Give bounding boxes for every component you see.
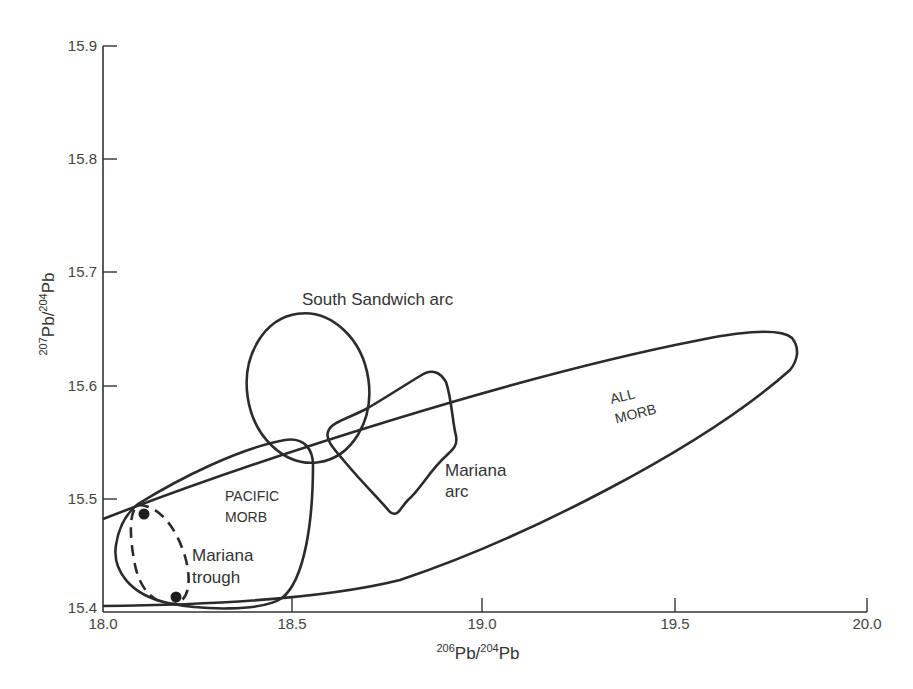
- y-tick-label: 15.9: [68, 37, 97, 54]
- label-mariana-trough-1: Mariana: [192, 546, 254, 565]
- label-mariana-arc-1: Mariana: [445, 461, 507, 480]
- mariana-trough-field: [131, 505, 189, 604]
- label-pacific-morb-1: PACIFIC: [225, 488, 279, 504]
- label-mariana-arc-2: arc: [445, 482, 469, 501]
- svg-text:ALL: ALL: [608, 385, 636, 407]
- y-tick-label: 15.7: [68, 263, 97, 280]
- y-tick-label: 15.6: [68, 377, 97, 394]
- axes: 15.9 15.8 15.7 15.6 15.5 15.4 18.0 18.5 …: [37, 37, 882, 663]
- label-mariana-trough-2: trough: [192, 568, 240, 587]
- x-tick-label: 19.0: [467, 615, 496, 632]
- y-ticks: 15.9 15.8 15.7 15.6 15.5 15.4: [68, 37, 117, 616]
- label-pacific-morb-2: MORB: [225, 509, 267, 525]
- label-south-sandwich-arc: South Sandwich arc: [302, 290, 454, 309]
- data-point: [171, 592, 182, 603]
- x-axis-title: 206Pb/204Pb: [436, 642, 519, 663]
- pb-isotope-chart: 15.9 15.8 15.7 15.6 15.5 15.4 18.0 18.5 …: [0, 0, 913, 689]
- mariana-arc-field: [327, 372, 456, 514]
- y-tick-label: 15.5: [68, 490, 97, 507]
- x-tick-label: 18.0: [88, 615, 117, 632]
- y-tick-label: 15.4: [68, 599, 97, 616]
- y-tick-label: 15.8: [68, 150, 97, 167]
- x-tick-label: 18.5: [277, 615, 306, 632]
- y-axis-title: 207Pb/204Pb: [37, 272, 58, 355]
- x-tick-label: 19.5: [660, 615, 689, 632]
- label-all-morb: ALL MORB: [608, 381, 657, 426]
- x-tick-label: 20.0: [852, 615, 881, 632]
- data-point: [139, 509, 150, 520]
